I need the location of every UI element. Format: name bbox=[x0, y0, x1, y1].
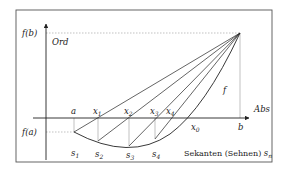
function-curve bbox=[74, 33, 240, 148]
s1-label: s1 bbox=[71, 148, 79, 159]
function-label: f bbox=[222, 85, 228, 95]
x2-label: x2 bbox=[124, 106, 133, 117]
s3-label: s3 bbox=[126, 150, 134, 161]
abscissa-label: Abs bbox=[253, 104, 271, 114]
s4-label: s4 bbox=[152, 149, 160, 160]
b-label: b bbox=[238, 122, 243, 132]
f-b-label: f(b) bbox=[21, 28, 37, 38]
secant-s2 bbox=[98, 33, 240, 141]
f-a-label: f(a) bbox=[21, 127, 37, 137]
x3-label: x3 bbox=[150, 106, 159, 117]
ordinate-label: Ord bbox=[52, 37, 69, 47]
s2-label: s2 bbox=[95, 149, 103, 160]
diagram-frame bbox=[16, 10, 272, 162]
x1-label: x1 bbox=[93, 106, 102, 117]
a-label: a bbox=[71, 106, 76, 116]
secant-caption: Sekanten (Sehnen) sn bbox=[184, 148, 272, 159]
x4-label: x4 bbox=[166, 106, 175, 117]
secant-method-diagram: f(b) Ord Abs f(a) f a b x1 x2 x3 x4 x0 s… bbox=[0, 0, 298, 188]
x0-label: x0 bbox=[191, 122, 200, 133]
secant-s4 bbox=[155, 33, 240, 139]
